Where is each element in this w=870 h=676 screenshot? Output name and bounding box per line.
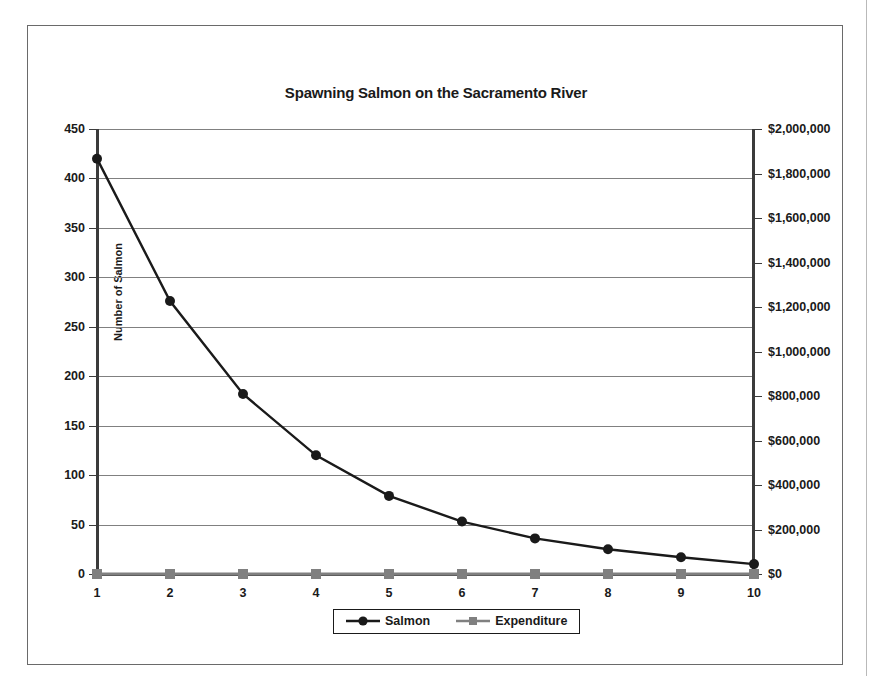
chart-legend: Salmon Expenditure <box>333 609 580 634</box>
expenditure-data-point <box>384 569 394 579</box>
y-axis-right-tick <box>754 396 762 397</box>
series-plot <box>97 129 754 574</box>
legend-item-expenditure: Expenditure <box>456 614 567 628</box>
y-axis-left-tick-label: 200 <box>25 369 85 383</box>
x-axis-tick-label: 4 <box>313 586 320 600</box>
y-axis-right-tick <box>754 307 762 308</box>
y-axis-left-tick-label: 300 <box>25 270 85 284</box>
chart-title: Spawning Salmon on the Sacramento River <box>28 84 844 101</box>
salmon-data-point <box>676 552 686 562</box>
y-axis-left-tick-label: 250 <box>25 320 85 334</box>
expenditure-marker-icon <box>456 615 490 627</box>
page-canvas: Spawning Salmon on the Sacramento River … <box>0 0 870 676</box>
y-axis-left-tick-label: 400 <box>25 171 85 185</box>
y-axis-right-tick <box>754 485 762 486</box>
y-axis-right-tick <box>754 129 762 130</box>
salmon-data-point <box>749 559 759 569</box>
y-axis-right-tick <box>754 263 762 264</box>
y-axis-right-tick-label: $1,000,000 <box>768 345 831 359</box>
y-axis-right-tick-label: $1,200,000 <box>768 300 831 314</box>
salmon-data-point <box>92 154 102 164</box>
y-axis-right-tick-label: $600,000 <box>768 434 820 448</box>
y-axis-left-tick-label: 150 <box>25 419 85 433</box>
y-axis-left-tick-label: 350 <box>25 221 85 235</box>
expenditure-data-point <box>603 569 613 579</box>
salmon-markers <box>92 154 759 569</box>
y-axis-right-tick <box>754 352 762 353</box>
y-axis-left-tick-label: 450 <box>25 122 85 136</box>
x-axis-tick-label: 5 <box>386 586 393 600</box>
expenditure-data-point <box>92 569 102 579</box>
y-axis-right-tick <box>754 218 762 219</box>
y-axis-right-tick-label: $0 <box>768 567 782 581</box>
expenditure-data-point <box>676 569 686 579</box>
legend-label-salmon: Salmon <box>385 614 430 628</box>
expenditure-data-point <box>457 569 467 579</box>
plot-area: 050100150200250300350400450 $0$200,000$4… <box>97 129 754 574</box>
salmon-data-point <box>311 450 321 460</box>
y-axis-left-tick-label: 0 <box>25 567 85 581</box>
expenditure-data-point <box>238 569 248 579</box>
salmon-data-point <box>384 491 394 501</box>
y-axis-left-tick-label: 100 <box>25 468 85 482</box>
expenditure-data-point <box>530 569 540 579</box>
expenditure-data-point <box>165 569 175 579</box>
y-axis-right-tick-label: $1,600,000 <box>768 211 831 225</box>
x-axis-tick-label: 3 <box>240 586 247 600</box>
chart-frame: Spawning Salmon on the Sacramento River … <box>27 25 843 665</box>
y-axis-left-tick-label: 50 <box>25 518 85 532</box>
x-axis-tick-label: 2 <box>167 586 174 600</box>
legend-label-expenditure: Expenditure <box>495 614 567 628</box>
y-axis-right-tick <box>754 441 762 442</box>
y-axis-right-tick <box>754 530 762 531</box>
salmon-data-point <box>165 296 175 306</box>
x-axis-tick-label: 8 <box>605 586 612 600</box>
salmon-data-point <box>457 517 467 527</box>
x-axis-tick-label: 9 <box>678 586 685 600</box>
salmon-data-point <box>530 533 540 543</box>
x-axis-tick-label: 10 <box>747 586 761 600</box>
y-axis-right-tick-label: $1,800,000 <box>768 167 831 181</box>
y-axis-right-tick-label: $800,000 <box>768 389 820 403</box>
expenditure-data-point <box>311 569 321 579</box>
y-axis-right-tick <box>754 174 762 175</box>
y-axis-right-tick-label: $200,000 <box>768 523 820 537</box>
salmon-marker-icon <box>346 615 380 627</box>
page-edge-rule <box>866 0 867 676</box>
legend-item-salmon: Salmon <box>346 614 430 628</box>
salmon-data-point <box>603 544 613 554</box>
salmon-data-point <box>238 389 248 399</box>
y-axis-right-tick-label: $1,400,000 <box>768 256 831 270</box>
x-axis-tick-label: 6 <box>459 586 466 600</box>
x-axis-tick-label: 1 <box>94 586 101 600</box>
y-axis-right-tick-label: $400,000 <box>768 478 820 492</box>
y-axis-right-tick-label: $2,000,000 <box>768 122 831 136</box>
salmon-line <box>97 159 754 564</box>
x-axis-tick-label: 7 <box>532 586 539 600</box>
expenditure-data-point <box>749 569 759 579</box>
